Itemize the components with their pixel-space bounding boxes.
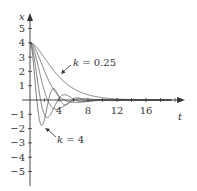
y-tick-label: −3 — [10, 137, 25, 148]
x-ticks: 481216 — [45, 98, 176, 116]
y-tick-label: 5 — [19, 23, 25, 34]
curve-k0.5 — [30, 43, 172, 103]
x-tick-label: 8 — [85, 105, 91, 116]
y-tick-label: 2 — [19, 66, 25, 77]
y-tick-label: 1 — [19, 80, 25, 91]
x-tick-label: 16 — [140, 105, 153, 116]
y-tick-label: 4 — [19, 37, 25, 48]
chart: 481216 −5−4−3−2−112345 t x k = 0.25 k = … — [0, 0, 197, 191]
annotation-k-4: k = 4 — [45, 128, 84, 145]
y-axis-arrow-icon — [27, 13, 33, 21]
x-tick-label: 4 — [56, 105, 62, 116]
annotation-k-value: = 0.25 — [79, 57, 116, 68]
annotation-k-0.25: k = 0.25 — [61, 57, 116, 74]
y-axis-label: x — [19, 11, 25, 22]
x-axis-arrow-icon — [177, 97, 185, 103]
annotation-k-value: = 4 — [63, 134, 84, 145]
x-axis-label: t — [178, 111, 183, 122]
y-tick-label: −5 — [10, 166, 25, 177]
svg-text:k = 4: k = 4 — [57, 134, 84, 145]
y-tick-label: −1 — [10, 109, 25, 120]
y-tick-label: −4 — [10, 152, 25, 163]
svg-text:k = 0.25: k = 0.25 — [73, 57, 116, 68]
x-tick-label: 12 — [111, 105, 124, 116]
y-tick-label: 3 — [19, 52, 25, 63]
y-tick-label: −2 — [10, 123, 25, 134]
